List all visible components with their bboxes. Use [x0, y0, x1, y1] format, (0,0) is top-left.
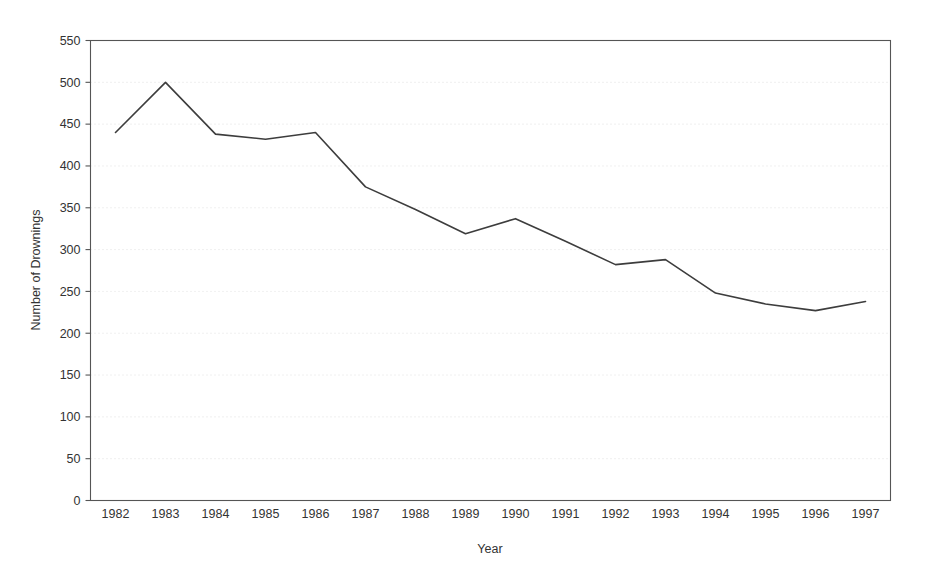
y-tick-label: 550 [60, 34, 81, 48]
x-tick-label: 1992 [602, 507, 630, 521]
x-tick-label: 1984 [202, 507, 230, 521]
x-tick-label: 1997 [852, 507, 880, 521]
x-tick-label: 1983 [152, 507, 180, 521]
y-tick-label: 150 [60, 368, 81, 382]
x-tick-label: 1988 [402, 507, 430, 521]
y-tick-label: 0 [74, 494, 81, 508]
y-tick-label: 450 [60, 117, 81, 131]
y-axis-title: Number of Drownings [29, 210, 43, 331]
line-chart: 050100150200250300350400450500550 198219… [0, 0, 926, 573]
x-tick-label: 1986 [302, 507, 330, 521]
x-tick-label: 1995 [752, 507, 780, 521]
chart-background [0, 0, 926, 573]
chart-container: 050100150200250300350400450500550 198219… [0, 0, 926, 573]
y-tick-label: 400 [60, 159, 81, 173]
y-tick-label: 200 [60, 327, 81, 341]
x-tick-label: 1996 [802, 507, 830, 521]
x-tick-label: 1982 [102, 507, 130, 521]
x-tick-label: 1993 [652, 507, 680, 521]
y-tick-label: 350 [60, 201, 81, 215]
x-tick-label: 1991 [552, 507, 580, 521]
y-tick-label: 100 [60, 410, 81, 424]
x-tick-label: 1987 [352, 507, 380, 521]
x-tick-label: 1990 [502, 507, 530, 521]
y-tick-label: 250 [60, 285, 81, 299]
x-axis-title: Year [477, 542, 502, 556]
y-tick-label: 500 [60, 76, 81, 90]
x-tick-label: 1985 [252, 507, 280, 521]
x-tick-label: 1989 [452, 507, 480, 521]
y-tick-label: 300 [60, 243, 81, 257]
x-tick-label: 1994 [702, 507, 730, 521]
y-tick-label: 50 [67, 452, 81, 466]
